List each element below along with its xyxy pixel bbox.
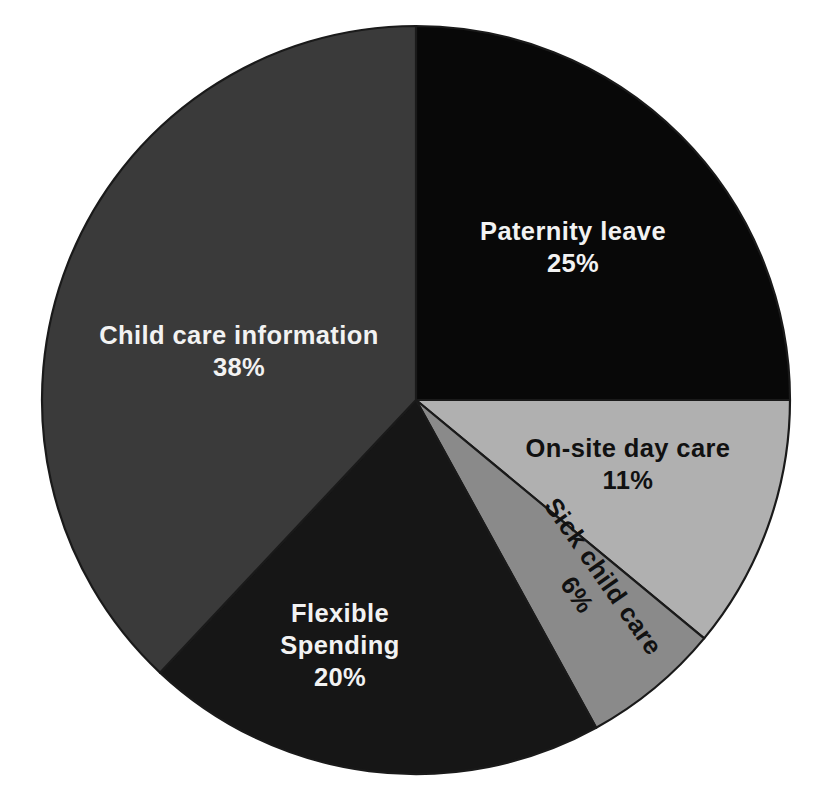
pie-label-paternity-leave-name: Paternity leave xyxy=(480,217,666,245)
pie-label-paternity-leave-value: 25% xyxy=(547,249,599,277)
pie-label-flexible-spending-name-line1: Flexible xyxy=(291,599,389,627)
pie-label-on-site-day-care-name: On-site day care xyxy=(526,434,731,462)
pie-label-on-site-day-care-value: 11% xyxy=(603,466,654,494)
pie-chart-figure: Paternity leave 25% On-site day care 11%… xyxy=(0,0,817,804)
pie-slice-paternity-leave[interactable] xyxy=(416,26,790,400)
pie-label-child-care-information-value: 38% xyxy=(213,353,265,381)
pie-label-flexible-spending-name-line2: Spending xyxy=(280,631,399,659)
pie-chart-canvas: Paternity leave 25% On-site day care 11%… xyxy=(0,0,817,804)
pie-label-child-care-information-name: Child care information xyxy=(99,321,378,349)
pie-label-flexible-spending-value: 20% xyxy=(314,663,366,691)
